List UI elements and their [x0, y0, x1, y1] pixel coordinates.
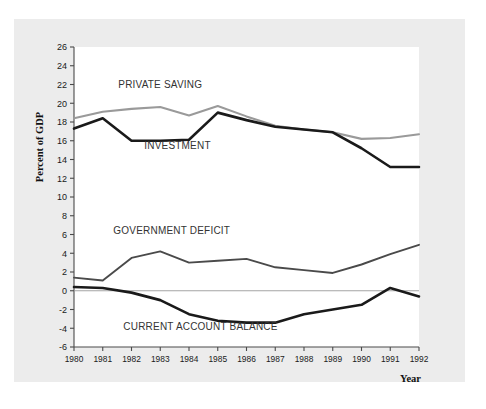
y-tick-label: 10: [57, 192, 67, 202]
y-tick-label: 22: [57, 80, 67, 90]
series-line-private-saving: [74, 106, 419, 139]
series-label-government-deficit: GOVERNMENT DEFICIT: [113, 225, 230, 236]
x-tick-label: 1982: [122, 354, 141, 364]
chart-svg: -6-4-20246810121416182022242619801981198…: [0, 0, 486, 409]
x-tick-label: 1988: [295, 354, 314, 364]
x-tick-label: 1991: [381, 354, 400, 364]
y-tick-label: 2: [62, 267, 67, 277]
y-tick-label: 18: [57, 117, 67, 127]
series-label-investment: INVESTMENT: [144, 140, 210, 151]
y-tick-label: 16: [57, 136, 67, 146]
x-tick-label: 1983: [151, 354, 170, 364]
chart-page: -6-4-20246810121416182022242619801981198…: [0, 0, 486, 409]
series-line-government-deficit: [74, 245, 419, 281]
x-tick-label: 1980: [65, 354, 84, 364]
y-tick-label: 0: [62, 286, 67, 296]
y-tick-label: 6: [62, 230, 67, 240]
series-label-current-account-balance: CURRENT ACCOUNT BALANCE: [123, 321, 277, 332]
y-tick-label: -6: [59, 342, 67, 352]
series-line-investment: [74, 113, 419, 167]
x-tick-label: 1984: [180, 354, 199, 364]
x-tick-label: 1985: [208, 354, 227, 364]
y-tick-label: 12: [57, 174, 67, 184]
x-tick-label: 1981: [93, 354, 112, 364]
x-tick-label: 1992: [410, 354, 429, 364]
x-axis-title: Year: [400, 373, 421, 384]
series-label-private-saving: PRIVATE SAVING: [118, 79, 202, 90]
y-tick-label: -4: [59, 324, 67, 334]
y-tick-label: 14: [57, 155, 67, 165]
y-tick-label: 26: [57, 42, 67, 52]
y-tick-label: -2: [59, 305, 67, 315]
x-tick-label: 1986: [237, 354, 256, 364]
series-line-current-account-balance: [74, 287, 419, 323]
x-tick-label: 1989: [323, 354, 342, 364]
y-tick-label: 20: [57, 99, 67, 109]
y-axis-title: Percent of GDP: [34, 111, 45, 182]
x-tick-label: 1987: [266, 354, 285, 364]
x-tick-label: 1990: [352, 354, 371, 364]
y-tick-label: 24: [57, 61, 67, 71]
y-tick-label: 4: [62, 249, 67, 259]
y-tick-label: 8: [62, 211, 67, 221]
